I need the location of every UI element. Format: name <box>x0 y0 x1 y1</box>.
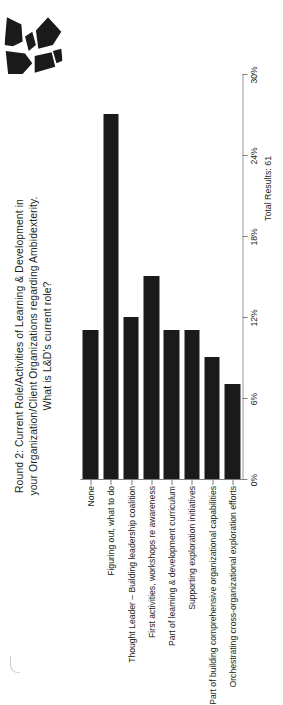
logo-icon <box>4 14 62 76</box>
chart-title-line-2: your Organization/Client Organizations r… <box>26 136 40 556</box>
value-tick <box>242 74 247 75</box>
category-tick <box>151 480 152 485</box>
category-label: Orchestrating cross-organizational explo… <box>227 486 237 687</box>
category-label: Part of learning & development curriculu… <box>166 486 176 646</box>
category-tick <box>90 480 91 485</box>
value-tick-label: 18% <box>248 228 258 245</box>
value-tick <box>242 155 247 156</box>
category-label: Figuring out, what to do <box>105 486 115 576</box>
bar <box>82 331 97 480</box>
category-label: Supporting exploration initiatives <box>186 486 196 610</box>
bar <box>143 277 158 480</box>
category-tick <box>110 480 111 485</box>
category-tick <box>131 480 132 485</box>
category-tick <box>212 480 213 485</box>
chart-header: Round 2: Current Role/Activities of Lear… <box>0 0 72 676</box>
page-scuff-mark <box>10 656 20 673</box>
value-tick <box>242 236 247 237</box>
category-tick <box>191 480 192 485</box>
value-tick-label: 0% <box>248 474 258 486</box>
value-tick-label: 24% <box>248 147 258 164</box>
value-axis-line <box>242 74 243 480</box>
bar <box>204 358 219 480</box>
value-tick-label: 30% <box>248 66 258 83</box>
category-tick <box>171 480 172 485</box>
bar <box>103 115 118 480</box>
bar <box>224 385 239 480</box>
total-results-label: Total Results: 61 <box>262 156 272 221</box>
value-tick-label: 6% <box>248 393 258 405</box>
value-tick <box>242 398 247 399</box>
bar <box>184 331 199 480</box>
chart-plot-area: 0%6%12%18%24%30% NoneFiguring out, what … <box>72 0 283 676</box>
category-label: Part of building comprehensive organizat… <box>207 486 217 705</box>
bar <box>163 331 178 480</box>
chart-title-line-1: Round 2: Current Role/Activities of Lear… <box>12 136 26 556</box>
bar <box>123 317 138 479</box>
value-tick <box>242 317 247 318</box>
value-tick-label: 12% <box>248 309 258 326</box>
category-tick <box>232 480 233 485</box>
chart-title: Round 2: Current Role/Activities of Lear… <box>12 136 54 556</box>
category-label: First activities, workshops re awareness <box>146 486 156 638</box>
category-label: Thought Leader – Building leadership coa… <box>126 486 136 663</box>
category-axis-line <box>80 479 242 480</box>
category-label: None <box>85 486 95 507</box>
chart-title-line-3: What is L&D's current role? <box>40 136 54 556</box>
value-tick <box>242 479 247 480</box>
